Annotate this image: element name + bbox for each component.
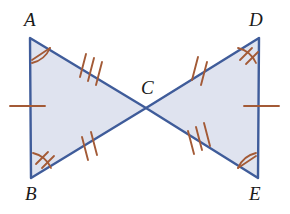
vertex-label-a: A (24, 10, 36, 29)
vertex-label-c: C (141, 78, 154, 97)
geometry-figure: A B C D E (0, 0, 290, 214)
vertex-label-d: D (249, 10, 263, 29)
vertex-label-e: E (249, 184, 261, 203)
figure-canvas (0, 0, 290, 214)
vertex-label-b: B (25, 184, 37, 203)
